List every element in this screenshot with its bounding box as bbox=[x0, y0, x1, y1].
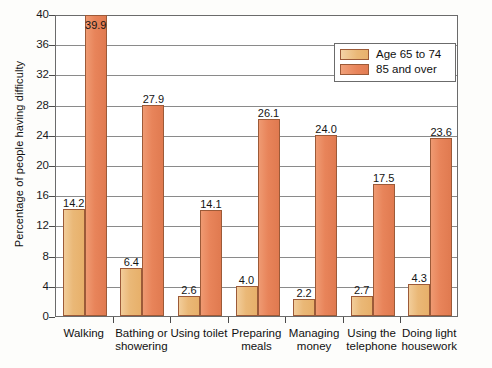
x-tick-mark bbox=[228, 317, 229, 323]
x-category-label-line: telephone bbox=[339, 340, 405, 353]
y-tick-label: 0 bbox=[16, 311, 49, 323]
y-tick-mark bbox=[49, 196, 55, 197]
x-category-label-line: Preparing bbox=[224, 327, 290, 340]
y-tick-mark bbox=[49, 106, 55, 107]
legend-item: 85 and over bbox=[340, 62, 451, 77]
y-tick-mark bbox=[49, 166, 55, 167]
y-tick-mark bbox=[49, 226, 55, 227]
x-tick-mark bbox=[343, 317, 344, 323]
legend-item: Age 65 to 74 bbox=[340, 47, 451, 62]
bar-chart: 14.239.96.427.92.614.14.026.12.224.02.71… bbox=[0, 0, 492, 368]
x-tick-mark bbox=[170, 317, 171, 323]
x-category-label: Using toilet bbox=[166, 327, 232, 340]
x-tick-mark bbox=[400, 317, 401, 323]
legend: Age 65 to 7485 and over bbox=[334, 43, 456, 82]
x-category-label: Using thetelephone bbox=[339, 327, 405, 353]
x-category-label-line: Using toilet bbox=[166, 327, 232, 340]
x-category-label: Managingmoney bbox=[281, 327, 347, 353]
x-category-label-line: Doing light bbox=[396, 327, 462, 340]
x-category-label: Walking bbox=[51, 327, 117, 340]
x-category-label: Preparingmeals bbox=[224, 327, 290, 353]
x-category-label-line: meals bbox=[224, 340, 290, 353]
y-tick-mark bbox=[49, 287, 55, 288]
x-category-label-line: showering bbox=[109, 340, 175, 353]
x-category-label-line: Bathing or bbox=[109, 327, 175, 340]
legend-label: 85 and over bbox=[376, 64, 437, 76]
legend-swatch bbox=[340, 64, 369, 75]
x-category-label-line: Using the bbox=[339, 327, 405, 340]
x-category-label-line: Walking bbox=[51, 327, 117, 340]
x-category-label-line: money bbox=[281, 340, 347, 353]
y-tick-mark bbox=[49, 75, 55, 76]
y-tick-mark bbox=[49, 15, 55, 16]
legend-swatch bbox=[340, 49, 369, 60]
x-category-label: Doing lighthousework bbox=[396, 327, 462, 353]
y-tick-mark bbox=[49, 317, 55, 318]
y-tick-mark bbox=[49, 45, 55, 46]
legend-label: Age 65 to 74 bbox=[376, 49, 441, 61]
x-tick-mark bbox=[113, 317, 114, 323]
y-tick-mark bbox=[49, 257, 55, 258]
y-axis-title: Percentage of people having difficulty bbox=[13, 4, 25, 304]
x-category-label-line: housework bbox=[396, 340, 462, 353]
x-category-label: Bathing orshowering bbox=[109, 327, 175, 353]
y-tick-mark bbox=[49, 136, 55, 137]
x-tick-mark bbox=[285, 317, 286, 323]
x-category-label-line: Managing bbox=[281, 327, 347, 340]
